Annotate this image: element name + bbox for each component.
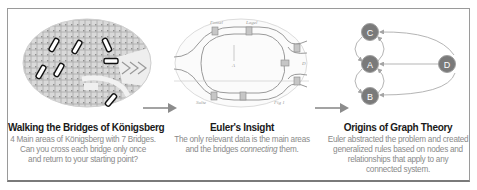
svg-text:A: A: [367, 60, 373, 70]
node-d: D: [439, 56, 456, 73]
graph-diagram: C A B D: [348, 19, 463, 114]
svg-text:D: D: [444, 60, 451, 70]
svg-text:C: C: [367, 28, 374, 38]
panel-description-konigsberg: 4 Main areas of Königsberg with 7 Bridge…: [8, 135, 158, 165]
svg-text:Lagel: Lagel: [245, 20, 258, 25]
svg-text:Fig 1: Fig 1: [273, 100, 285, 105]
euler-sketch-image: Fomel Lagel A D Sulte Fig 1: [174, 17, 309, 109]
panel-title-konigsberg: Walking the Bridges of Königsberg: [8, 122, 158, 133]
node-b: B: [362, 88, 379, 105]
svg-text:B: B: [367, 92, 373, 102]
node-a: A: [362, 56, 379, 73]
node-c: C: [362, 24, 379, 41]
panel-title-graph-theory: Origins of Graph Theory: [328, 122, 468, 133]
panel-title-euler: Euler's Insight: [168, 122, 316, 133]
konigsberg-map-image: [22, 17, 152, 109]
svg-text:D: D: [301, 61, 306, 66]
panel-description-graph-theory: Euler abstracted the problem and created…: [326, 135, 470, 175]
diagram-frame: Walking the Bridges of Königsberg 4 Main…: [7, 8, 470, 182]
svg-text:Fomel: Fomel: [209, 20, 223, 25]
svg-text:Sulte: Sulte: [196, 100, 207, 105]
panel-description-euler: The only relevant data is the main areas…: [163, 135, 321, 155]
arrow-right-icon: [315, 103, 351, 113]
